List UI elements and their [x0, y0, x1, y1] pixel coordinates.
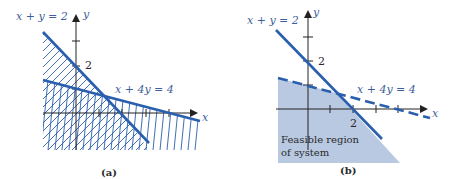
- hatch-line: [202, 70, 210, 150]
- hatch-line: [168, 30, 288, 150]
- caption-a: (a): [101, 167, 117, 178]
- y-axis-label: y: [82, 8, 90, 21]
- label-x-plus-y: x + y = 2: [16, 10, 68, 23]
- x-axis-label: x: [202, 111, 209, 124]
- y-axis-label: y: [312, 6, 320, 19]
- hatch-line: [132, 70, 140, 150]
- x-axis-label: x: [432, 107, 439, 120]
- y-tick-label-2: 2: [318, 55, 325, 68]
- hatch-line: [34, 70, 42, 150]
- panel-a: x + y = 2 x + 4y = 4 y x 2 (a): [0, 8, 312, 178]
- hatch-line: [0, 30, 40, 150]
- hatch-line: [76, 70, 84, 150]
- hatch-line: [195, 70, 203, 150]
- hatch-line: [160, 30, 280, 150]
- hatch-line: [181, 70, 189, 150]
- hatch-line: [209, 70, 217, 150]
- caption-b: (b): [340, 165, 356, 176]
- hatch-line: [62, 70, 70, 150]
- hatch-line: [167, 70, 175, 150]
- label-x-plus-y: x + y = 2: [247, 14, 299, 27]
- hatch-line: [0, 30, 112, 150]
- panel-b: x + y = 2 x + 4y = 4 y x 2 2 Feasible re…: [247, 6, 439, 176]
- hatch-line: [0, 30, 48, 150]
- hatch-line: [174, 70, 182, 150]
- feasible-region-label-line1: Feasible region: [281, 134, 360, 145]
- y-tick-label-2: 2: [85, 59, 92, 72]
- x-tick-label-2: 2: [350, 117, 357, 130]
- label-x-plus-4y: x + 4y = 4: [357, 83, 416, 96]
- hatch-line: [27, 70, 35, 150]
- hatch-line: [188, 70, 196, 150]
- figure: x + y = 2 x + 4y = 4 y x 2 (a) x + y = 2…: [0, 0, 450, 179]
- hatch-line: [20, 70, 28, 150]
- hatch-line: [0, 30, 56, 150]
- feasible-region-label-line2: of system: [281, 147, 330, 158]
- label-x-plus-4y: x + 4y = 4: [115, 83, 174, 96]
